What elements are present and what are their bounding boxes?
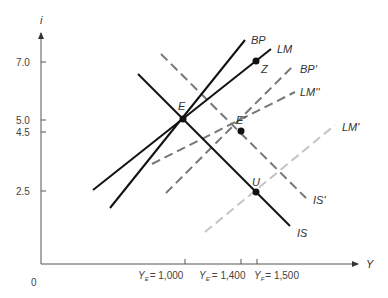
point-z: [253, 58, 260, 65]
bp-prime-curve: [166, 66, 293, 193]
point-e: [180, 116, 187, 123]
point-z-label: Z: [260, 63, 269, 75]
is-curve: [138, 74, 290, 226]
point-e-prime-label: E': [236, 114, 246, 126]
x-tick-label-ye-prime: YE'= 1,400: [199, 270, 246, 282]
bp-prime-label: BP': [300, 63, 318, 75]
lm-prime-label: LM': [342, 121, 360, 133]
point-u-label: U: [252, 176, 260, 188]
x-tick-label-ye: YE= 1,000: [138, 270, 184, 282]
is-prime-curve: [161, 54, 306, 198]
is-lm-bp-diagram: i Y 0 7.0 5.0 4.5 2.5 YE= 1,000 YE'= 1,4…: [0, 0, 388, 298]
point-e-label: E: [178, 100, 186, 112]
y-tick-label-5: 5.0: [16, 115, 30, 126]
origin-label: 0: [31, 277, 37, 288]
y-tick-label-4-5: 4.5: [16, 127, 30, 138]
lm-label: LM: [277, 43, 293, 55]
axes: i Y 0 7.0 5.0 4.5 2.5 YE= 1,000 YE'= 1,4…: [16, 14, 374, 288]
is-label: IS: [297, 227, 308, 239]
x-axis-label: Y: [366, 258, 374, 270]
y-tick-label-7: 7.0: [16, 57, 30, 68]
lm-double-prime-label: LM'': [300, 86, 320, 98]
point-e-prime: [238, 128, 245, 135]
x-tick-label-yf: YF= 1,500: [254, 270, 299, 282]
y-axis-label: i: [40, 14, 43, 26]
is-prime-label: IS': [313, 194, 326, 206]
bp-label: BP: [251, 34, 266, 46]
y-tick-label-2-5: 2.5: [16, 186, 30, 197]
point-u: [253, 189, 260, 196]
dashed-curves: [152, 54, 335, 232]
lm-prime-curve: [205, 125, 335, 232]
